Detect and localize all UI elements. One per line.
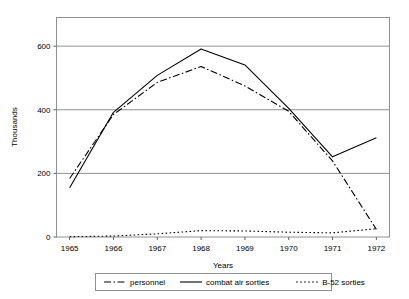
- y-axis-title: Thousands: [10, 107, 19, 147]
- x-axis-tick-label: 1972: [367, 244, 385, 253]
- x-axis-tick-label: 1966: [105, 244, 123, 253]
- x-axis-tick-label: 1967: [148, 244, 166, 253]
- chart-svg: 0200400600 19651966196719681969197019711…: [0, 0, 409, 299]
- x-axis-tick-label: 1970: [280, 244, 298, 253]
- x-axis-tick-label: 1968: [192, 244, 210, 253]
- x-axis-tick-label: 1965: [61, 244, 79, 253]
- plot-area-frame: [57, 18, 390, 238]
- line-chart: 0200400600 19651966196719681969197019711…: [0, 0, 409, 299]
- y-axis-tick-label: 200: [37, 169, 51, 178]
- chart-legend: personnelcombat air sortiesB-52 sorties: [96, 274, 365, 291]
- legend-label-combat-air-sorties: combat air sorties: [206, 278, 269, 287]
- y-axis-tick-label: 600: [37, 42, 51, 51]
- x-axis-title: Years: [213, 261, 233, 270]
- legend-items: personnelcombat air sortiesB-52 sorties: [104, 278, 365, 287]
- y-axis-tick-label: 400: [37, 106, 51, 115]
- legend-label-b-52-sorties: B-52 sorties: [322, 278, 365, 287]
- x-axis-tick-label: 1969: [236, 244, 254, 253]
- y-axis-tick-label: 0: [46, 233, 51, 242]
- legend-label-personnel: personnel: [130, 278, 165, 287]
- x-axis-tick-label: 1971: [324, 244, 342, 253]
